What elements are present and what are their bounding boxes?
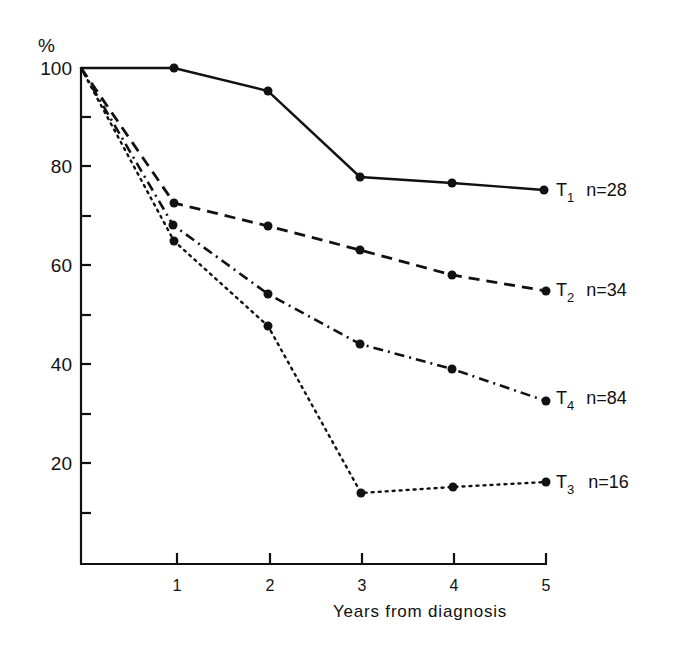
- x-tick-1: 1: [173, 577, 182, 594]
- label-t3: T3n=16: [556, 472, 629, 497]
- x-tick-3: 3: [358, 577, 367, 594]
- label-t2: T2n=34: [556, 280, 627, 305]
- x-tick-4: 4: [450, 577, 459, 594]
- series-t4: [81, 68, 551, 406]
- y-tick-40: 40: [51, 354, 72, 375]
- series-t2: [81, 68, 551, 296]
- y-tick-100: 100: [40, 58, 72, 79]
- x-tick-5: 5: [542, 577, 551, 594]
- y-tick-20: 20: [51, 453, 72, 474]
- label-t4: T4n=84: [556, 388, 627, 413]
- axes: [80, 67, 547, 564]
- x-tick-2: 2: [266, 577, 275, 594]
- survival-chart: % 100 80 60 40 20 1 2 3 4 5 Years from d…: [0, 0, 673, 651]
- y-tick-80: 80: [51, 156, 72, 177]
- series-t1: [81, 64, 549, 195]
- series-t3: [81, 68, 551, 498]
- x-axis-title: Years from diagnosis: [333, 602, 507, 621]
- label-t1: T1n=28: [556, 180, 627, 205]
- y-tick-60: 60: [51, 255, 72, 276]
- y-unit-label: %: [38, 35, 55, 56]
